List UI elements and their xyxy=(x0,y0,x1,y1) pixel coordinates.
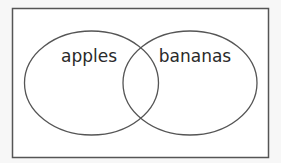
apples-label: apples xyxy=(61,46,117,66)
universal-set-box xyxy=(13,9,269,158)
venn-diagram: apples bananas xyxy=(0,0,281,163)
bananas-label: bananas xyxy=(159,46,232,66)
